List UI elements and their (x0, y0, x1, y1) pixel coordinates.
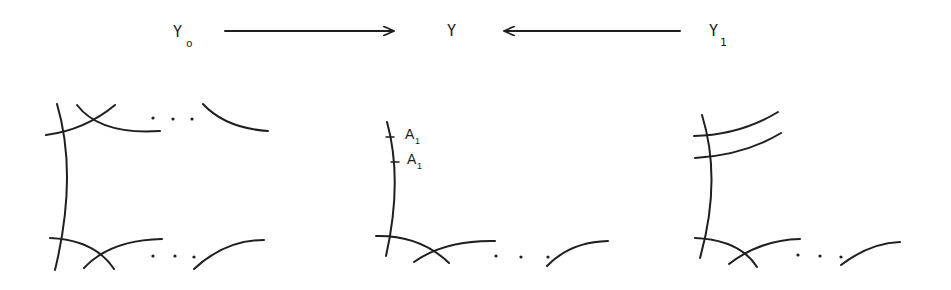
svg-text:Y: Y (709, 22, 718, 40)
svg-text:A: A (405, 126, 415, 142)
curve-top-3 (203, 104, 268, 131)
mark-A1-lower: A 1 (407, 151, 422, 171)
svg-text:Y: Y (447, 22, 456, 40)
svg-text:Y: Y (173, 23, 182, 41)
curve-top-2 (77, 105, 160, 131)
svg-text:1: 1 (415, 136, 420, 146)
curve-bottom-3 (547, 241, 608, 266)
label-Y-o: Y o (173, 23, 193, 50)
svg-text:o: o (186, 37, 193, 50)
curve-bottom-2 (729, 239, 800, 264)
curve-bottom-3 (841, 242, 900, 265)
panel-Y-o (46, 104, 268, 270)
vertical-curve (55, 104, 67, 270)
curve-bottom-3 (194, 240, 264, 269)
svg-text:1: 1 (720, 36, 727, 49)
label-Y: Y (447, 22, 456, 40)
curve-bottom-2 (414, 241, 495, 262)
diagram-canvas: Y o Y Y 1 A 1 A 1 (0, 0, 951, 290)
label-Y-1: Y 1 (709, 22, 727, 49)
panel-Y-1 (694, 112, 900, 267)
svg-text:1: 1 (417, 161, 422, 171)
panel-Y: A 1 A 1 (376, 122, 608, 266)
svg-text:A: A (407, 151, 417, 167)
curve-bottom-2 (84, 239, 162, 268)
mark-A1-upper: A 1 (405, 126, 420, 146)
